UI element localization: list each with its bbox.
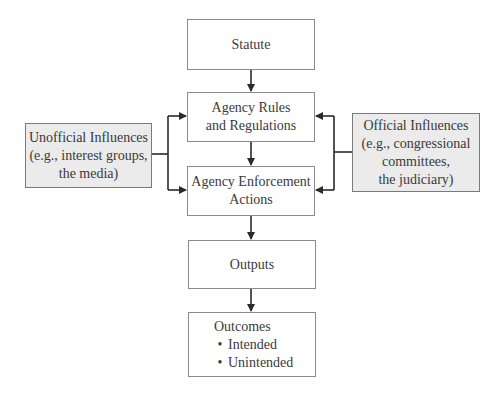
outcome-unintended: Unintended xyxy=(214,354,293,372)
outcomes-title: Outcomes xyxy=(214,318,271,336)
agency-enforcement-label-line2: Actions xyxy=(229,191,273,209)
official-influences-line2: (e.g., congressional xyxy=(362,135,471,153)
outcome-intended: Intended xyxy=(214,336,277,354)
agency-rules-label-line1: Agency Rules xyxy=(212,99,291,117)
agency-enforcement-label-line1: Agency Enforcement xyxy=(191,173,310,191)
agency-rules-label-line2: and Regulations xyxy=(206,117,297,135)
unofficial-influences-line2: (e.g., interest groups, xyxy=(29,147,147,165)
statute-box: Statute xyxy=(187,19,315,70)
outputs-label: Outputs xyxy=(230,256,274,274)
unofficial-influences-box: Unofficial Influences (e.g., interest gr… xyxy=(25,123,152,188)
official-influences-line4: the judiciary) xyxy=(378,171,453,189)
official-influences-line3: committees, xyxy=(382,153,450,171)
official-influences-line1: Official Influences xyxy=(363,117,468,135)
agency-rules-box: Agency Rules and Regulations xyxy=(187,92,315,142)
official-influences-box: Official Influences (e.g., congressional… xyxy=(352,113,480,192)
outputs-box: Outputs xyxy=(188,240,316,289)
statute-label: Statute xyxy=(232,36,271,54)
unofficial-influences-line1: Unofficial Influences xyxy=(29,129,148,147)
agency-enforcement-box: Agency Enforcement Actions xyxy=(187,166,315,216)
unofficial-influences-line3: the media) xyxy=(59,165,118,183)
outcomes-box: Outcomes Intended Unintended xyxy=(188,312,316,377)
